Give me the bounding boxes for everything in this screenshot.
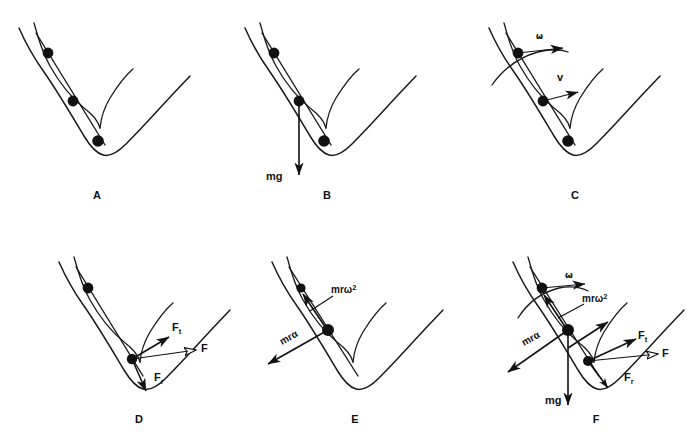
panel-d-radial-force-vector <box>132 359 146 391</box>
panel-f-radial-force-vector <box>588 361 608 388</box>
panel-d-tangential-force-label: Ft <box>172 321 182 336</box>
panel-a-letter: A <box>93 189 101 201</box>
panel-f-omega-label: ω <box>565 270 573 280</box>
panel-a-groove-left <box>34 23 100 128</box>
panel-b-letter: B <box>323 189 331 201</box>
panel-e-tangential-label: mrα <box>278 328 301 347</box>
panel-b-weight-label: mg <box>266 170 283 182</box>
panel-a-groove-right <box>100 69 133 128</box>
panel-e-centripetal-label: mrω2 <box>331 283 356 296</box>
panel-f-radial-force-label: Fr <box>624 371 634 386</box>
panel-e-groove-right <box>353 303 386 362</box>
panel-e-centripetal-leader <box>310 296 333 311</box>
panel-f-centripetal-leader <box>558 304 584 318</box>
panel-b-bead-bottom <box>318 135 330 147</box>
panel-a-bead-top <box>43 48 54 59</box>
panel-f-ft-sub: t <box>645 335 648 344</box>
panel-f-tangential-label: mrα <box>520 329 543 348</box>
physics-diagram-canvas: A mg B ω v C <box>0 0 692 438</box>
panel-d-bead-top <box>83 283 94 294</box>
panel-a-bead-bottom <box>92 135 104 147</box>
panel-d-groove-left <box>74 257 140 362</box>
panel-f: ω mrω2 mrα mg Ft F Fr F <box>508 257 684 425</box>
panel-d-groove-right <box>140 303 173 362</box>
panel-f-weight-label: mg <box>545 394 562 406</box>
panel-d-ft-sub: t <box>179 327 182 336</box>
panel-d-tangential-force-vector <box>132 337 169 359</box>
panel-c-groove-right <box>570 69 603 128</box>
figure-root: A mg B ω v C <box>0 0 692 438</box>
panel-a-bead-mid <box>68 96 79 107</box>
panel-e: mrω2 mrα E <box>268 257 443 425</box>
panel-b-groove-right <box>326 69 359 128</box>
panel-b-bead-top <box>269 48 280 59</box>
panel-f-tangential-force-label: Ft <box>638 329 648 344</box>
panel-f-sup-two: 2 <box>603 292 607 301</box>
panel-f-resultant-force-label: F <box>662 347 669 359</box>
panel-f-mr-prefix: mr <box>582 293 595 304</box>
panel-d-fr-sub: r <box>161 377 164 386</box>
panel-f-letter: F <box>593 413 600 425</box>
panel-e-groove-left <box>287 257 353 362</box>
panel-d: Ft F Fr D <box>59 257 230 425</box>
panel-c-omega-vector <box>518 48 563 53</box>
panel-c-bead-bottom <box>562 135 574 147</box>
panel-e-letter: E <box>351 413 358 425</box>
panel-c-letter: C <box>571 189 579 201</box>
panel-e-bead-top <box>296 283 305 292</box>
panel-d-letter: D <box>135 413 143 425</box>
panel-c-velocity-vector <box>543 92 578 101</box>
panel-c-omega-label: ω <box>536 32 543 41</box>
panel-b-groove-left <box>260 23 326 128</box>
panel-f-fr-sub: r <box>631 377 634 386</box>
panel-e-sup-two: 2 <box>352 283 356 292</box>
panel-e-mr-prefix: mr <box>331 284 344 295</box>
panel-b: mg B <box>245 23 416 201</box>
panel-c: ω v C <box>489 23 660 201</box>
panel-f-groove-right <box>594 303 627 362</box>
panel-a: A <box>19 23 190 201</box>
panel-f-tangential-force-vector <box>588 339 636 361</box>
panel-f-centripetal-vector <box>544 295 570 334</box>
panel-c-velocity-label: v <box>557 71 564 83</box>
panel-f-centripetal-label: mrω2 <box>582 292 607 305</box>
panel-d-resultant-force-label: F <box>201 342 208 354</box>
panel-f-resultant-force-vector <box>588 354 658 361</box>
panel-f-groove-left <box>528 257 594 362</box>
